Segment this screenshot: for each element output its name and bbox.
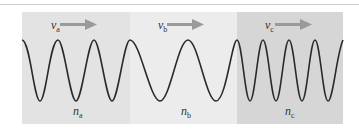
velocity-arrow-b <box>167 19 204 30</box>
velocity-label-c: vc <box>265 18 274 34</box>
velocity-arrow-a <box>60 19 97 30</box>
index-label-c: nc <box>285 104 295 120</box>
velocity-label-a: va <box>51 18 60 34</box>
index-label-b: nb <box>181 104 191 120</box>
wave-curve <box>22 40 343 101</box>
velocity-arrow-c <box>275 19 312 30</box>
index-label-a: na <box>73 104 83 120</box>
velocity-label-b: vb <box>158 18 167 34</box>
